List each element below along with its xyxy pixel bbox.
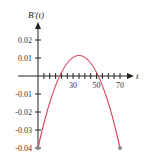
y-tick-label: -0.03 <box>15 126 32 135</box>
x-tick-label: 50 <box>93 81 101 90</box>
y-tick-label: -0.01 <box>15 90 32 99</box>
curve <box>38 56 120 149</box>
chart: 30 50 70 0.02 0.01 -0.01 -0.02 -0.03 -0.… <box>0 0 145 164</box>
x-axis-label: t <box>136 71 139 81</box>
y-tick-label: 0.01 <box>18 54 32 63</box>
y-tick-label: -0.02 <box>15 108 32 117</box>
y-tick-label: -0.04 <box>15 144 32 153</box>
endpoint-left <box>36 146 40 150</box>
y-axis-label: B'(t) <box>28 10 44 20</box>
x-tick-label: 30 <box>69 81 77 90</box>
y-axis-arrow-icon <box>35 22 41 29</box>
x-axis-arrow-icon <box>127 73 134 79</box>
endpoint-right <box>118 146 122 150</box>
y-tick-label: 0.02 <box>18 36 32 45</box>
x-tick-label: 70 <box>116 81 124 90</box>
